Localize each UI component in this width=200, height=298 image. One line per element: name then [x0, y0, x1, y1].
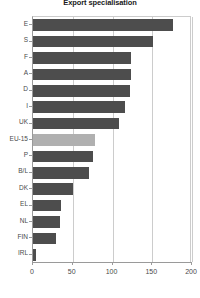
plot-area	[32, 16, 191, 262]
y-axis-label-group: ESFADIUKEU-15PB/LDKELNLFINIRL	[0, 16, 30, 262]
chart-title: Export specialisation	[0, 0, 200, 7]
chart-figure: Export specialisation ESFADIUKEU-15PB/LD…	[0, 0, 200, 298]
y-axis-tick-label: D	[23, 86, 28, 93]
x-axis-tick-label: 0	[30, 268, 34, 275]
y-axis-tick-label: B/L	[18, 168, 28, 175]
bar	[33, 101, 125, 112]
x-axis-tick-label: 150	[145, 268, 157, 275]
x-axis-tick	[112, 262, 113, 265]
x-axis-tick-label: 100	[106, 268, 118, 275]
y-axis-tick-label: UK	[19, 119, 28, 126]
x-axis-tick	[151, 262, 152, 265]
bar	[33, 249, 36, 260]
bar	[33, 19, 173, 30]
bar	[33, 69, 131, 80]
bar	[33, 216, 60, 227]
gridline	[192, 17, 193, 262]
y-axis-tick-label: EL	[20, 201, 28, 208]
bar	[33, 36, 153, 47]
y-axis-tick-label: NL	[20, 218, 28, 225]
y-axis-tick-label: I	[26, 103, 28, 110]
bar	[33, 151, 93, 162]
x-axis-tick-label: 50	[68, 268, 76, 275]
y-axis-tick-label: FIN	[18, 234, 28, 241]
bar	[33, 200, 61, 211]
y-axis-tick-label: A	[24, 70, 28, 77]
bar	[33, 183, 73, 194]
bar-group	[33, 17, 190, 262]
y-axis-tick-label: P	[24, 152, 28, 159]
y-axis-tick-label: E	[24, 21, 28, 28]
x-axis-tick	[72, 262, 73, 265]
bar	[33, 118, 119, 129]
y-axis-tick-label: S	[24, 37, 28, 44]
y-axis-tick-label: DK	[19, 185, 28, 192]
bar	[33, 233, 56, 244]
y-axis-tick-label: EU-15	[10, 136, 28, 143]
y-axis-tick-label: F	[24, 54, 28, 61]
y-axis-tick-label: IRL	[18, 250, 28, 257]
bar	[33, 52, 131, 63]
bar	[33, 167, 89, 178]
x-axis-tick-label: 200	[185, 268, 197, 275]
bar	[33, 134, 95, 145]
x-axis-tick	[191, 262, 192, 265]
bar	[33, 85, 130, 96]
x-axis-tick	[32, 262, 33, 265]
